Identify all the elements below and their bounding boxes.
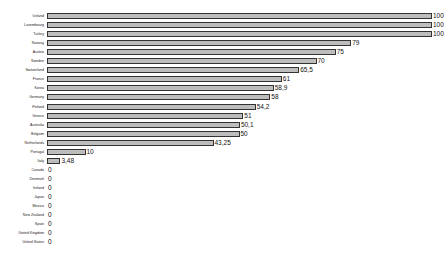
category-label: Iceland [32,13,44,19]
bar [47,49,336,55]
value-label: 79 [352,39,359,47]
value-label: 61 [283,75,290,83]
value-label: 58 [271,93,278,101]
category-label: United States [22,239,44,245]
bar-row: Sweden70 [0,57,440,66]
value-label: 0 [48,175,52,183]
value-label: 54,2 [257,103,270,111]
bar-row: Korea58,9 [0,84,440,93]
bar-row: Switzerland65,5 [0,66,440,75]
category-label: Canada [31,167,44,173]
bar-row: Spain0 [0,220,440,229]
value-label: 75 [337,48,344,56]
category-label: Turkey [33,31,44,37]
bar [47,158,60,164]
category-label: Luxembourg [24,22,44,28]
bar-row: Canada0 [0,166,440,175]
bar-row: Belgium50 [0,130,440,139]
value-label: 65,5 [300,66,313,74]
value-label: 0 [48,211,52,219]
value-label: 0 [48,166,52,174]
bar-row: Luxembourg100 [0,21,440,30]
bar-row: New Zealand0 [0,211,440,220]
bar [47,140,214,146]
value-label: 100 [433,12,444,20]
bar-row: Mexico0 [0,202,440,211]
value-label: 50,1 [241,121,254,129]
category-label: United Kingdom [18,230,44,236]
category-label: Netherlands [25,140,44,146]
bar-row: Portugal10 [0,148,440,157]
category-label: Switzerland [25,67,44,73]
bar-row: Austria75 [0,48,440,57]
category-label: Mexico [33,203,44,209]
bar [47,31,432,37]
category-label: Greece [32,113,44,119]
bar [47,122,240,128]
bar-row: Turkey100 [0,30,440,39]
bar [47,67,299,73]
category-label: Italy [37,158,44,164]
bar-row: Norway79 [0,39,440,48]
category-label: Norway [32,40,44,46]
category-label: Korea [34,85,44,91]
value-label: 3,48 [61,157,74,165]
category-label: France [33,76,44,82]
value-label: 51 [244,112,251,120]
value-label: 43,25 [215,139,231,147]
bar [47,94,270,100]
value-label: 0 [48,202,52,210]
value-label: 100 [433,30,444,38]
bar [47,40,351,46]
value-label: 58,9 [275,84,288,92]
value-label: 0 [48,229,52,237]
bar-row: Italy3,48 [0,157,440,166]
category-label: Australia [30,122,44,128]
bar [47,149,86,155]
value-label: 0 [48,184,52,192]
category-label: Portugal [31,149,44,155]
bar-row: United Kingdom0 [0,229,440,238]
category-label: Denmark [29,176,44,182]
category-label: New Zealand [23,212,44,218]
bar-row: United States0 [0,238,440,247]
category-label: Germany [29,94,44,100]
value-label: 100 [433,21,444,29]
bar [47,76,282,82]
category-label: Japan [34,194,44,200]
value-label: 10 [87,148,94,156]
bar [47,131,240,137]
bar-row: Germany58 [0,93,440,102]
value-label: 0 [48,193,52,201]
category-label: Belgium [31,131,44,137]
category-label: Spain [35,221,44,227]
bar [47,22,432,28]
value-label: 0 [48,220,52,228]
bar [47,13,432,19]
value-label: 70 [318,57,325,65]
bar [47,113,243,119]
bar [47,104,256,110]
category-label: Sweden [31,58,44,64]
value-label: 0 [48,238,52,246]
bar-row: Netherlands43,25 [0,139,440,148]
bar-row: Iceland100 [0,12,440,21]
bar-row: Ireland0 [0,184,440,193]
bar-row: Greece51 [0,112,440,121]
bar [47,85,274,91]
category-label: Finland [32,104,44,110]
bar-row: Japan0 [0,193,440,202]
bar [47,58,317,64]
bar-row: France61 [0,75,440,84]
bar-row: Denmark0 [0,175,440,184]
category-label: Ireland [33,185,44,191]
bar-row: Finland54,2 [0,103,440,112]
value-label: 50 [241,130,248,138]
category-label: Austria [33,49,44,55]
bar-row: Australia50,1 [0,121,440,130]
